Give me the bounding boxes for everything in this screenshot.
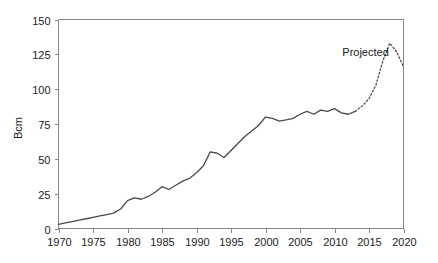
y-tick-label: 100 xyxy=(32,84,50,96)
y-axis-ticks: 0255075100125150 xyxy=(32,15,58,236)
x-tick-label: 2000 xyxy=(254,236,278,248)
x-tick-label: 1985 xyxy=(150,236,174,248)
y-tick-label: 0 xyxy=(44,224,50,236)
x-tick-label: 1980 xyxy=(116,236,140,248)
annotation-projected-label: Projected xyxy=(342,46,388,58)
x-tick-label: 1975 xyxy=(81,236,105,248)
chart-annotations: Projected xyxy=(342,46,388,58)
y-tick-label: 50 xyxy=(38,154,50,166)
y-tick-label: 75 xyxy=(38,119,50,131)
y-tick-label: 125 xyxy=(32,49,50,61)
x-axis-ticks: 1970197519801985199019952000200520102015… xyxy=(47,229,416,248)
y-tick-label: 150 xyxy=(32,15,50,27)
line-chart: 0255075100125150 19701975198019851990199… xyxy=(0,0,438,263)
x-tick-label: 1990 xyxy=(185,236,209,248)
x-tick-label: 2005 xyxy=(288,236,312,248)
x-tick-label: 2015 xyxy=(357,236,381,248)
chart-series xyxy=(59,43,404,224)
x-tick-label: 1995 xyxy=(219,236,243,248)
x-tick-label: 2010 xyxy=(323,236,347,248)
y-axis-title: Bcm xyxy=(12,117,24,139)
x-tick-label: 1970 xyxy=(47,236,71,248)
y-tick-label: 25 xyxy=(38,189,50,201)
series-line-historical xyxy=(59,109,356,225)
x-tick-label: 2020 xyxy=(392,236,416,248)
chart-container: 0255075100125150 19701975198019851990199… xyxy=(0,0,438,263)
